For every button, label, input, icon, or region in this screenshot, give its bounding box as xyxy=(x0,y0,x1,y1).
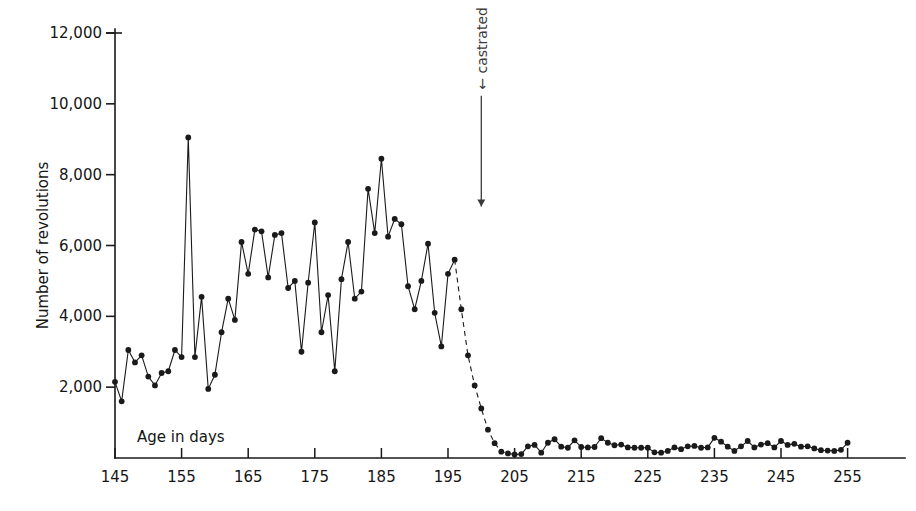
data-point xyxy=(405,283,411,289)
x-tick-label: 175 xyxy=(300,468,329,486)
x-tick-label: 215 xyxy=(567,468,596,486)
data-point xyxy=(592,444,598,450)
data-point xyxy=(678,446,684,452)
y-tick-label: 12,000 xyxy=(50,24,103,42)
data-point xyxy=(811,446,817,452)
data-point xyxy=(738,443,744,449)
data-point xyxy=(532,442,538,448)
data-point xyxy=(179,354,185,360)
data-point xyxy=(212,372,218,378)
data-point xyxy=(572,437,578,443)
data-point xyxy=(478,406,484,412)
y-tick-label: 4,000 xyxy=(59,307,102,325)
data-point xyxy=(385,234,391,240)
data-point xyxy=(412,306,418,312)
y-tick-label: 10,000 xyxy=(50,95,103,113)
data-point xyxy=(119,398,125,404)
x-tick-label: 235 xyxy=(700,468,729,486)
data-point xyxy=(818,447,824,453)
data-point xyxy=(538,450,544,456)
x-tick-label: 245 xyxy=(767,468,796,486)
data-point xyxy=(831,448,837,454)
data-point xyxy=(199,294,205,300)
data-point xyxy=(265,274,271,280)
data-point xyxy=(791,441,797,447)
data-point xyxy=(585,444,591,450)
data-point xyxy=(345,239,351,245)
data-point xyxy=(432,310,438,316)
data-point xyxy=(159,370,165,376)
data-point xyxy=(172,347,178,353)
data-point xyxy=(518,451,524,457)
chart-canvas: 2,0004,0006,0008,00010,00012,00014515516… xyxy=(0,0,916,511)
data-point xyxy=(505,450,511,456)
data-point xyxy=(259,228,265,234)
data-point xyxy=(225,296,231,302)
data-point xyxy=(718,439,724,445)
data-point xyxy=(312,220,318,226)
y-tick-label: 6,000 xyxy=(59,237,102,255)
data-point xyxy=(605,440,611,446)
data-point xyxy=(712,435,718,441)
x-tick-label: 165 xyxy=(234,468,263,486)
data-point xyxy=(558,444,564,450)
data-point xyxy=(565,445,571,451)
data-point xyxy=(292,278,298,284)
data-point xyxy=(339,276,345,282)
data-point xyxy=(771,444,777,450)
data-point xyxy=(672,444,678,450)
data-point xyxy=(379,156,385,162)
data-point xyxy=(798,444,804,450)
data-point xyxy=(232,317,238,323)
data-point xyxy=(845,440,851,446)
data-point xyxy=(618,442,624,448)
x-tick-label: 155 xyxy=(167,468,196,486)
data-point xyxy=(192,354,198,360)
data-point xyxy=(658,450,664,456)
y-tick-label: 8,000 xyxy=(59,166,102,184)
x-tick-label: 205 xyxy=(500,468,529,486)
data-point xyxy=(578,444,584,450)
data-point xyxy=(132,359,138,365)
x-tick-label: 225 xyxy=(633,468,662,486)
x-tick-label: 195 xyxy=(434,468,463,486)
data-point xyxy=(705,444,711,450)
data-point xyxy=(652,449,658,455)
data-point xyxy=(472,382,478,388)
series-line-revolutions-precastration xyxy=(115,137,455,401)
data-point xyxy=(625,444,631,450)
data-point xyxy=(425,241,431,247)
data-point xyxy=(552,436,558,442)
data-point xyxy=(445,271,451,277)
data-point xyxy=(418,278,424,284)
x-tick-label: 185 xyxy=(367,468,396,486)
data-point xyxy=(438,344,444,350)
data-point xyxy=(365,186,371,192)
data-point xyxy=(219,329,225,335)
data-point xyxy=(492,440,498,446)
data-point xyxy=(239,239,245,245)
data-point xyxy=(545,440,551,446)
data-point xyxy=(372,230,378,236)
data-point xyxy=(805,443,811,449)
data-point xyxy=(332,368,338,374)
data-point xyxy=(765,440,771,446)
data-point xyxy=(325,292,331,298)
data-point xyxy=(205,386,211,392)
data-point xyxy=(305,280,311,286)
x-tick-label: 145 xyxy=(101,468,130,486)
data-point xyxy=(352,296,358,302)
data-point xyxy=(632,445,638,451)
data-point xyxy=(525,443,531,449)
data-point xyxy=(838,447,844,453)
data-point xyxy=(665,448,671,454)
data-point xyxy=(165,368,171,374)
data-point xyxy=(638,445,644,451)
data-point xyxy=(398,221,404,227)
data-point xyxy=(252,227,258,233)
data-point xyxy=(299,349,305,355)
y-tick-label: 2,000 xyxy=(59,378,102,396)
data-point xyxy=(245,271,251,277)
data-point xyxy=(758,442,764,448)
data-point xyxy=(785,442,791,448)
